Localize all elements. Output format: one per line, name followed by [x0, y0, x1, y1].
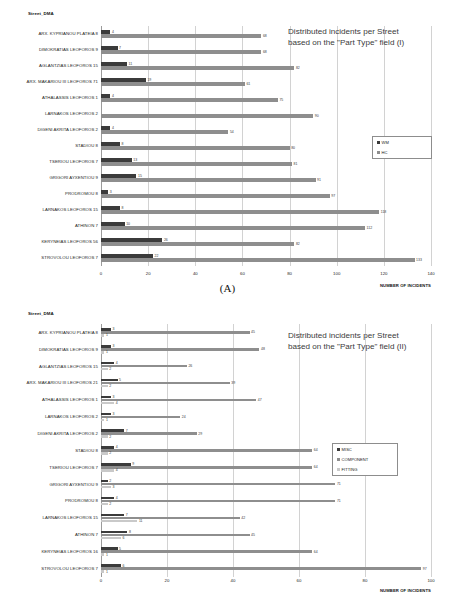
bar-value-label: 2 — [109, 502, 111, 506]
bar-fitting: 2 — [101, 435, 108, 438]
x-axis-tick: 120 — [380, 271, 387, 276]
bar-component: 64 — [101, 550, 312, 553]
bar-value-label: 1 — [106, 553, 108, 557]
x-axis-title: NUMBER OF INCIDENTS — [380, 283, 431, 288]
bar-fitting: 6 — [101, 537, 121, 540]
bar-value-label: 75 — [279, 98, 283, 102]
category-label: KERYNEIAS LEOFOROS 16 — [41, 549, 98, 554]
chart-row: LARNAKOS LEOFOROS 23241 — [101, 408, 431, 425]
chart-title-line-2: based on the "Part Type" field (II) — [288, 341, 407, 352]
bar-component: 64 — [101, 449, 312, 452]
legend-label: MISC — [342, 447, 352, 452]
bar-hc: 61 — [101, 82, 245, 86]
bar-fitting: 1 — [101, 419, 104, 422]
legend-swatch-icon — [377, 151, 380, 154]
bar-component: 29 — [101, 432, 197, 435]
category-label: DIGENI AKRITA LEOFOROS 2 — [37, 127, 98, 132]
chart-row: LARNAKOS LEOFOROS 158118 — [101, 202, 431, 218]
category-label: AGLANTZIAS LEOFOROS 15 — [39, 63, 98, 68]
bar-hc: 112 — [101, 226, 365, 230]
bar-value-label: 6 — [122, 536, 124, 540]
bar-value-label: 2 — [109, 435, 111, 439]
chart-row: KERYNEIAS LEOFOROS 562682 — [101, 234, 431, 250]
bar-value-label: 1 — [106, 350, 108, 354]
category-label: ATHINON 7 — [75, 532, 98, 537]
bar-component: 45 — [101, 331, 250, 334]
chart-row: ARX. MAKARIOU III LEOFOROS 215392 — [101, 375, 431, 392]
bar-value-label: 47 — [258, 398, 262, 402]
category-label: LARNAKOS LEOFOROS 15 — [43, 515, 98, 520]
bar-value-label: 48 — [261, 347, 265, 351]
x-axis-tick: 40 — [231, 578, 236, 583]
legend-label: FITTING — [342, 467, 358, 472]
bar-value-label: 82 — [296, 66, 300, 70]
bar-value-label: 64 — [314, 448, 318, 452]
category-label: TSERIOU LEOFOROS 7 — [49, 159, 98, 164]
figure-page: (A) (B) Street_DMAARX. KYPRIANOU PLATEIA… — [0, 0, 455, 615]
category-label: LARNAKOS LEOFOROS 2 — [45, 111, 98, 116]
category-label: KERYNEIAS LEOFOROS 56 — [41, 239, 98, 244]
chart-row: AGLANTZIAS LEOFOROS 151182 — [101, 58, 431, 74]
chart-row: ARX. MAKARIOU III LEOFOROS 711961 — [101, 74, 431, 90]
bar-fitting: 2 — [101, 503, 108, 506]
bar-value-label: 54 — [230, 130, 234, 134]
category-label: TSERIOU LEOFOROS 7 — [49, 465, 98, 470]
bar-value-label: 45 — [251, 330, 255, 334]
x-axis-tick: 140 — [427, 271, 434, 276]
category-label: STADIOU 8 — [75, 143, 98, 148]
legend-item-hc[interactable]: HC — [377, 150, 427, 155]
bar-fitting: 1 — [101, 570, 104, 573]
bar-hc: 75 — [101, 98, 278, 102]
legend-item-misc[interactable]: MISC — [337, 447, 393, 452]
category-label: ARX. KYPRIANOU PLATEIA 8 — [38, 31, 98, 36]
bar-value-label: 81 — [294, 162, 298, 166]
chart-legend[interactable]: MISCCOMPONENTFITTING — [332, 443, 398, 476]
category-label: AGLANTZIAS LEOFOROS 15 — [39, 364, 98, 369]
legend-item-fitting[interactable]: FITTING — [337, 467, 393, 472]
chart-row: PRODROMOU 8397 — [101, 186, 431, 202]
legend-label: WM — [382, 140, 389, 145]
chart-legend[interactable]: WMHC — [372, 136, 432, 159]
bar-fitting: 2 — [101, 385, 108, 388]
bar-value-label: 64 — [314, 550, 318, 554]
category-label: STROVOLOU LEOFOROS 7 — [41, 255, 98, 260]
bar-hc: 54 — [101, 130, 228, 134]
bar-hc: 118 — [101, 210, 379, 214]
bar-fitting: 3 — [101, 486, 111, 489]
chart-row: LARNAKOS LEOFOROS 290 — [101, 106, 431, 122]
category-label: PRODROMOU 8 — [65, 191, 98, 196]
bar-component: 71 — [101, 500, 335, 503]
category-label: DIMOKRATIAS LEOFOROS 9 — [39, 347, 98, 352]
bar-component: 97 — [101, 567, 421, 570]
y-axis-header: Street_DMA — [28, 311, 54, 316]
bar-fitting: 1 — [101, 351, 104, 354]
category-label: PRODROMOU 8 — [65, 498, 98, 503]
bar-component: 71 — [101, 483, 335, 486]
legend-swatch-icon — [337, 448, 340, 451]
bar-value-label: 64 — [314, 465, 318, 469]
legend-item-component[interactable]: COMPONENT — [337, 457, 393, 462]
x-axis-tick: 20 — [146, 271, 151, 276]
x-axis-title: NUMBER OF INCIDENTS — [380, 588, 431, 593]
category-label: STADIOU 8 — [75, 448, 98, 453]
category-label: ATHALASSIS LEOFOROS 1 — [42, 397, 98, 402]
x-axis-tick: 60 — [297, 578, 302, 583]
chart-title-line-1: Distributed incidents per Street — [288, 26, 404, 37]
chart-title: Distributed incidents per Streetbased on… — [288, 26, 404, 48]
bar-value-label: 71 — [337, 482, 341, 486]
x-axis-tick: 40 — [193, 271, 198, 276]
x-axis-tick: 60 — [240, 271, 245, 276]
bar-value-label: 2 — [109, 367, 111, 371]
bar-value-label: 71 — [337, 499, 341, 503]
bar-hc: 97 — [101, 194, 330, 198]
legend-swatch-icon — [377, 141, 380, 144]
bar-value-label: 11 — [139, 519, 143, 523]
category-label: LARNAKOS LEOFOROS 15 — [43, 207, 98, 212]
legend-item-wm[interactable]: WM — [377, 140, 427, 145]
x-axis-tick: 100 — [333, 271, 340, 276]
bar-value-label: 82 — [296, 242, 300, 246]
legend-label: HC — [382, 150, 388, 155]
bar-value-label: 39 — [231, 381, 235, 385]
chart-row: GRIGORI AYXENTIOU 91591 — [101, 170, 431, 186]
bar-value-label: 118 — [381, 210, 387, 214]
